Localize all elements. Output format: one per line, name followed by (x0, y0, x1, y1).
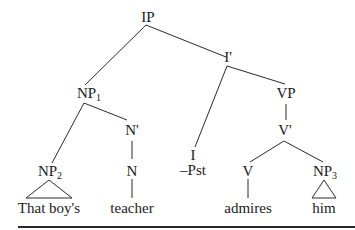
node-ibar-label: I' (224, 49, 232, 65)
node-np2: NP2 (38, 164, 62, 179)
bottom-rule-divider (18, 226, 355, 228)
node-i-feature: –Pst (180, 163, 206, 178)
node-ibar: I' (224, 50, 232, 65)
node-np3-label: NP (313, 163, 332, 179)
node-np1-subscript: 1 (96, 92, 101, 103)
node-np1: NP1 (77, 86, 101, 101)
leaf-admires: admires (224, 201, 271, 216)
node-v-label: V (243, 163, 254, 179)
triangle-np2 (26, 180, 72, 198)
leaf-him: him (312, 201, 335, 216)
edge-vbar-v (250, 141, 284, 162)
node-nbar: N' (125, 123, 139, 138)
node-vbar-label: V' (278, 122, 292, 138)
leaf-that-boys: That boy's (18, 201, 80, 216)
node-np2-label: NP (38, 163, 57, 179)
node-v: V (243, 164, 254, 179)
node-i-feature-label: –Pst (180, 162, 206, 178)
node-i-label: I (191, 147, 196, 163)
edge-ibar-vp (227, 66, 285, 84)
node-vp-label: VP (276, 85, 295, 101)
edge-ip-np1 (85, 25, 146, 85)
leaf-teacher: teacher (110, 201, 153, 216)
edge-np1-nbar (84, 103, 127, 120)
leaf-teacher-text: teacher (110, 200, 153, 216)
syntax-tree-diagram: IP I' NP1 VP N' V' I –Pst NP2 N V NP3 Th… (0, 0, 355, 230)
node-ip: IP (141, 10, 154, 25)
leaf-him-text: him (312, 200, 335, 216)
tree-edges (0, 0, 355, 230)
leaf-admires-text: admires (224, 200, 271, 216)
node-np3-subscript: 3 (332, 170, 337, 181)
edge-ibar-i (195, 66, 227, 147)
node-np2-subscript: 2 (57, 170, 62, 181)
edge-vbar-np3 (284, 141, 323, 162)
node-n: N (127, 164, 138, 179)
node-n-label: N (127, 163, 138, 179)
node-nbar-label: N' (125, 122, 139, 138)
node-ip-label: IP (141, 9, 154, 25)
triangle-np3 (312, 180, 336, 198)
node-np1-label: NP (77, 85, 96, 101)
node-vp: VP (276, 86, 295, 101)
node-vbar: V' (278, 123, 292, 138)
leaf-that-boys-text: That boy's (18, 200, 80, 216)
edge-np1-np2 (52, 103, 84, 163)
node-np3: NP3 (313, 164, 337, 179)
node-i: I (191, 148, 196, 163)
edge-ip-ibar (146, 25, 226, 57)
